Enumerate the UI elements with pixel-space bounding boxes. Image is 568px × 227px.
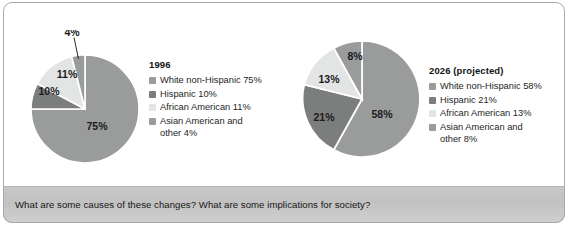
legend-swatch-hispanic-icon: [149, 91, 156, 98]
legend-title-2026: 2026 (projected): [429, 65, 565, 77]
legend-swatch-asian-american-other-icon: [429, 124, 436, 131]
legend-swatch-white-non-hispanic-icon: [429, 83, 436, 90]
legend-label-white-non-hispanic: White non-Hispanic 75%: [160, 74, 262, 87]
pie-svg-2026: 58% 21% 13% 8%: [300, 38, 426, 162]
legend-item-african-american: African American 13%: [429, 107, 565, 120]
legend-label-asian-american-other: Asian American and other 4%: [160, 115, 243, 140]
legend-item-white-non-hispanic: White non-Hispanic 75%: [149, 74, 289, 87]
chart-1996: 75% 10% 11% 4% 1996 White non-Hispanic 7…: [10, 3, 290, 186]
legend-swatch-african-american-icon: [149, 104, 156, 111]
legend-swatch-hispanic-icon: [429, 97, 436, 104]
legend-item-asian-american-other: Asian American and other 8%: [429, 121, 565, 146]
slice-value-asian-american-other: 8%: [347, 50, 363, 62]
legend-1996: 1996 White non-Hispanic 75% Hispanic 10%…: [149, 59, 289, 141]
population-composition-figure: 75% 10% 11% 4% 1996 White non-Hispanic 7…: [0, 0, 568, 227]
chart-2026: 58% 21% 13% 8% 2026 (projected) White no…: [292, 3, 564, 186]
legend-swatch-asian-american-other-icon: [149, 118, 156, 125]
slice-value-white-non-hispanic: 75%: [86, 120, 108, 132]
pie-svg-1996: 75% 10% 11% 4%: [24, 30, 146, 166]
legend-label-asian-american-other: Asian American and other 8%: [440, 121, 523, 146]
legend-item-hispanic: Hispanic 21%: [429, 94, 565, 107]
slice-value-white-non-hispanic: 58%: [371, 108, 393, 120]
slice-value-hispanic: 21%: [313, 111, 335, 123]
legend-label-hispanic: Hispanic 10%: [160, 88, 217, 101]
legend-item-african-american: African American 11%: [149, 101, 289, 114]
caption-bar: What are some causes of these changes? W…: [3, 186, 565, 223]
legend-2026: 2026 (projected) White non-Hispanic 58% …: [429, 65, 565, 147]
legend-label-african-american: African American 13%: [440, 107, 531, 120]
pie-chart-1996: 75% 10% 11% 4%: [24, 30, 146, 166]
legend-item-white-non-hispanic: White non-Hispanic 58%: [429, 80, 565, 93]
legend-label-hispanic: Hispanic 21%: [440, 94, 497, 107]
slice-value-hispanic: 10%: [38, 85, 60, 97]
legend-swatch-white-non-hispanic-icon: [149, 77, 156, 84]
legend-label-white-non-hispanic: White non-Hispanic 58%: [440, 80, 542, 93]
legend-label-african-american: African American 11%: [160, 101, 251, 114]
slice-value-asian-american-other: 4%: [64, 30, 80, 38]
legend-item-asian-american-other: Asian American and other 4%: [149, 115, 289, 140]
legend-item-hispanic: Hispanic 10%: [149, 88, 289, 101]
slice-value-african-american: 13%: [318, 73, 340, 85]
slice-value-african-american: 11%: [57, 68, 78, 80]
legend-title-1996: 1996: [149, 59, 289, 71]
charts-area: 75% 10% 11% 4% 1996 White non-Hispanic 7…: [4, 3, 564, 186]
legend-swatch-african-american-icon: [429, 110, 436, 117]
pie-chart-2026: 58% 21% 13% 8%: [300, 38, 426, 162]
caption-text: What are some causes of these changes? W…: [4, 199, 370, 210]
